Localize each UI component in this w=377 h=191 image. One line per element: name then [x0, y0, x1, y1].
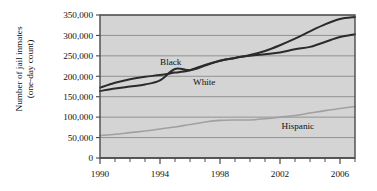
y-tick-label: 0: [88, 153, 93, 163]
jail-inmates-line-chart: Number of jail inmates (one-day count) 0…: [0, 0, 377, 191]
y-tick-label: 150,000: [63, 92, 93, 102]
y-tick-label: 350,000: [63, 10, 93, 20]
chart-canvas: 050,000100,000150,000200,000250,000300,0…: [0, 0, 377, 191]
y-tick-label: 200,000: [63, 72, 93, 82]
y-tick-label: 250,000: [63, 51, 93, 61]
y-tick-label: 100,000: [63, 112, 93, 122]
x-axis-ticks: 19901994199820022006: [91, 158, 355, 179]
y-tick-label: 300,000: [63, 31, 93, 41]
series-label-black: Black: [160, 57, 182, 67]
y-tick-label: 50,000: [68, 133, 94, 143]
x-tick-label: 1994: [151, 169, 170, 179]
x-tick-label: 2002: [271, 169, 290, 179]
series-label-white: White: [193, 77, 215, 87]
series-label-hispanic: Hispanic: [282, 121, 315, 131]
x-tick-label: 1990: [91, 169, 110, 179]
x-tick-label: 1998: [211, 169, 230, 179]
y-axis-ticks: 050,000100,000150,000200,000250,000300,0…: [63, 10, 100, 163]
x-tick-label: 2006: [331, 169, 350, 179]
